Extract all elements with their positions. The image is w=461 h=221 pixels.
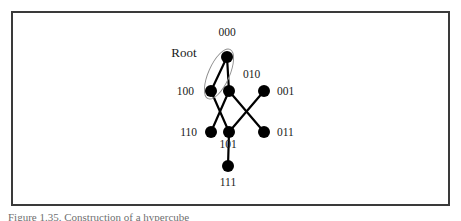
graph-node-010 bbox=[223, 85, 235, 97]
node-label-110: 110 bbox=[180, 126, 197, 138]
figure-caption: Figure 1.35. Construction of a hypercube bbox=[8, 211, 448, 221]
graph-node-111 bbox=[222, 160, 234, 172]
node-label-000: 000 bbox=[218, 26, 236, 38]
graph-node-101 bbox=[223, 126, 235, 138]
graph-node-110 bbox=[205, 126, 217, 138]
graph-node-100 bbox=[205, 85, 217, 97]
node-label-100: 100 bbox=[177, 85, 195, 97]
nodes-layer bbox=[205, 51, 270, 172]
figure-container: 000100010001110101011111 Root Figure 1.3… bbox=[0, 0, 461, 221]
node-label-111: 111 bbox=[220, 176, 237, 188]
node-label-011: 011 bbox=[277, 126, 294, 138]
annotation-root: Root bbox=[171, 45, 197, 60]
hypercube-graph: 000100010001110101011111 Root bbox=[0, 0, 461, 221]
graph-node-011 bbox=[258, 126, 270, 138]
annotations-layer: Root bbox=[171, 45, 197, 60]
node-label-010: 010 bbox=[243, 68, 261, 80]
graph-node-000 bbox=[221, 51, 233, 63]
node-label-001: 001 bbox=[277, 85, 295, 97]
graph-node-001 bbox=[258, 85, 270, 97]
node-label-101: 101 bbox=[219, 138, 237, 150]
